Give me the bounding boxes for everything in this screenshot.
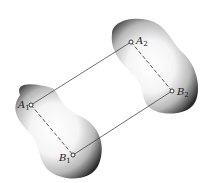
line-A1-A2: [31, 42, 131, 105]
body-position-2: [112, 19, 198, 114]
point-A2: [129, 40, 133, 44]
point-B2: [170, 89, 174, 93]
translation-diagram: A1 B1 A2 B2: [0, 0, 215, 183]
point-B1: [71, 153, 75, 157]
body-position-1: [15, 84, 101, 178]
